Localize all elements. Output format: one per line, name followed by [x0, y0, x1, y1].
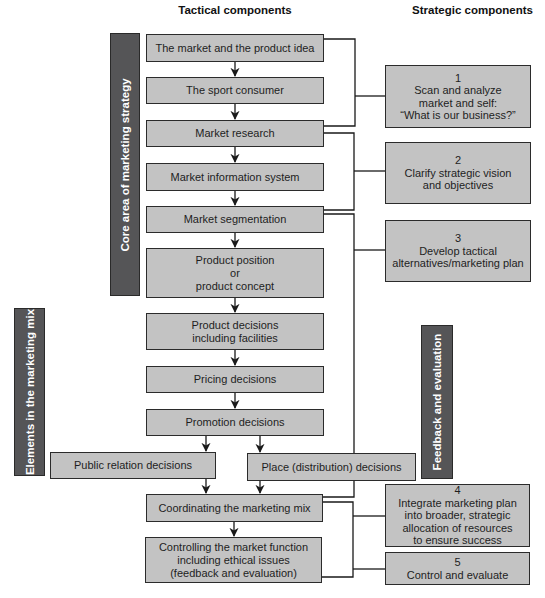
marketing-mix-label-bar: Elements in the marketing mix [14, 308, 45, 476]
strategic-box-1-scan-analyze: 1 Scan and analyze market and self: “Wha… [385, 65, 531, 128]
box-public-relation-decisions: Public relation decisions [50, 452, 216, 479]
box-place-decisions: Place (distribution) decisions [247, 453, 416, 481]
feedback-evaluation-label: Feedback and evaluation [431, 334, 443, 471]
box-market-segmentation: Market segmentation [146, 206, 324, 233]
core-area-label: Core area of marketing strategy [119, 78, 131, 251]
strategic-box-2-clarify-vision: 2 Clarify strategic vision and objective… [385, 142, 531, 204]
box-market-product-idea: The market and the product idea [146, 34, 324, 62]
box-product-position: Product position or product concept [146, 248, 324, 298]
box-coordinating-mix: Coordinating the marketing mix [146, 494, 323, 522]
strategic-box-5-control-evaluate: 5 Control and evaluate [385, 552, 530, 585]
box-sport-consumer: The sport consumer [146, 77, 324, 104]
strategic-box-4-integrate-plan: 4 Integrate marketing plan into broader,… [385, 484, 530, 547]
box-promotion-decisions: Promotion decisions [146, 409, 324, 436]
marketing-mix-label: Elements in the marketing mix [24, 309, 36, 475]
box-controlling-market-function: Controlling the market function includin… [145, 537, 322, 583]
feedback-evaluation-label-bar: Feedback and evaluation [421, 325, 453, 479]
box-product-decisions: Product decisions including facilities [146, 313, 324, 350]
box-pricing-decisions: Pricing decisions [146, 366, 324, 393]
box-market-information-system: Market information system [146, 163, 324, 191]
box-market-research: Market research [146, 120, 324, 147]
strategic-box-3-develop-plan: 3 Develop tactical alternatives/marketin… [385, 220, 531, 282]
core-area-label-bar: Core area of marketing strategy [110, 33, 140, 296]
